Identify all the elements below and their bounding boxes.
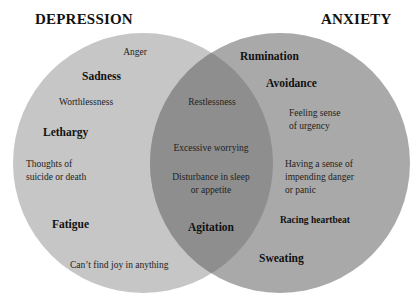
symptom-impending-danger: Having a sense of impending danger or pa… bbox=[285, 158, 354, 197]
symptom-fatigue: Fatigue bbox=[52, 218, 89, 231]
symptom-impending-danger-line2: impending danger bbox=[285, 171, 354, 184]
symptom-sleep-appetite-line2: or appetite bbox=[172, 184, 250, 197]
symptom-urgency-line1: Feeling sense bbox=[289, 107, 340, 120]
symptom-impending-danger-line3: or panic bbox=[285, 184, 354, 197]
symptom-urgency-line2: of urgency bbox=[289, 120, 340, 133]
symptom-anger: Anger bbox=[123, 46, 147, 59]
symptom-urgency: Feeling sense of urgency bbox=[289, 107, 340, 133]
symptom-worthlessness: Worthlessness bbox=[59, 96, 113, 109]
anxiety-title: ANXIETY bbox=[321, 13, 392, 26]
symptom-suicidal-thoughts-line2: suicide or death bbox=[26, 171, 86, 184]
symptom-restlessness: Restlessness bbox=[188, 96, 236, 109]
symptom-avoidance: Avoidance bbox=[266, 77, 317, 90]
symptom-rumination: Rumination bbox=[240, 50, 299, 63]
symptom-racing-heartbeat: Racing heartbeat bbox=[280, 214, 350, 227]
depression-title: DEPRESSION bbox=[35, 13, 133, 26]
symptom-no-joy: Can’t find joy in anything bbox=[70, 259, 169, 272]
symptom-sweating: Sweating bbox=[259, 252, 304, 265]
symptom-impending-danger-line1: Having a sense of bbox=[285, 158, 354, 171]
symptom-sadness: Sadness bbox=[82, 70, 121, 83]
symptom-agitation: Agitation bbox=[188, 221, 234, 234]
symptom-suicidal-thoughts-line1: Thoughts of bbox=[26, 158, 86, 171]
symptom-lethargy: Lethargy bbox=[43, 126, 88, 139]
symptom-excessive-worrying: Excessive worrying bbox=[173, 142, 248, 155]
symptom-sleep-appetite-disturbance: Disturbance in sleep or appetite bbox=[172, 171, 250, 197]
symptom-suicidal-thoughts: Thoughts of suicide or death bbox=[26, 158, 86, 184]
symptom-sleep-appetite-line1: Disturbance in sleep bbox=[172, 171, 250, 184]
